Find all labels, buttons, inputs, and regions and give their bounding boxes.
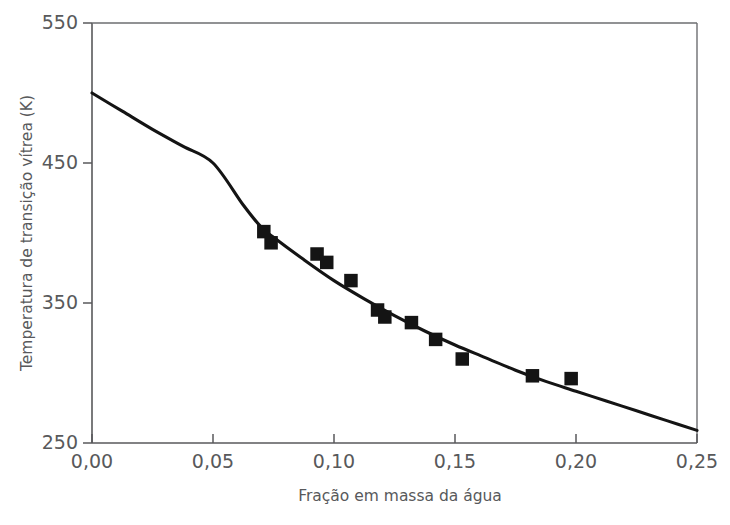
data-point bbox=[378, 310, 392, 324]
data-point bbox=[564, 372, 578, 386]
x-tick-label-015: 0,15 bbox=[434, 450, 476, 472]
glass-transition-temperature-chart: 550 450 350 250 0,00 0,05 0,10 0,15 0,20… bbox=[0, 0, 730, 525]
data-point bbox=[405, 316, 419, 330]
x-axis-title: Fração em massa da água bbox=[298, 487, 502, 505]
x-tick-label-020: 0,20 bbox=[555, 450, 597, 472]
y-tick-label-450: 450 bbox=[42, 151, 78, 173]
data-point bbox=[526, 369, 540, 383]
data-point bbox=[344, 274, 358, 288]
x-tick-label-010: 0,10 bbox=[313, 450, 355, 472]
y-tick-label-350: 350 bbox=[42, 291, 78, 313]
data-point bbox=[456, 352, 470, 366]
x-tick-label-005: 0,05 bbox=[192, 450, 234, 472]
chart-background bbox=[0, 0, 730, 525]
x-tick-label-000: 0,00 bbox=[71, 450, 113, 472]
data-point bbox=[264, 236, 278, 250]
y-tick-label-550: 550 bbox=[42, 11, 78, 33]
data-point bbox=[320, 256, 334, 270]
x-tick-label-025: 0,25 bbox=[676, 450, 718, 472]
data-point bbox=[429, 333, 443, 347]
y-axis-title: Temperatura de transição vítrea (K) bbox=[18, 95, 36, 372]
